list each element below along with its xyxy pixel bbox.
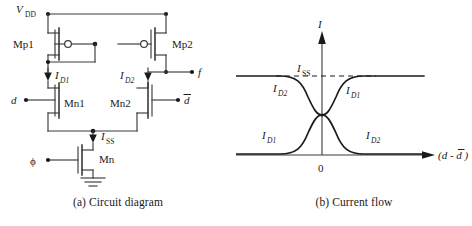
label-curve-id2-right-sub: D2 <box>370 136 380 145</box>
label-id2-sub: D2 <box>124 76 134 85</box>
current-flow-svg: I I SS I D2 I D1 I D1 I D2 0 (d - d ) <box>236 0 472 190</box>
figure-root: V DD Mp1 Mp2 I D1 I D2 Mn1 Mn2 I SS Mn d… <box>0 0 472 226</box>
label-curve-id1-right-sub: D1 <box>350 91 360 100</box>
label-clock-phi: ϕ <box>30 155 36 167</box>
label-iss-sub: SS <box>106 137 114 146</box>
label-input-d: d <box>11 94 17 106</box>
terminal-dot-d <box>24 98 28 102</box>
mp1-gate-bubble <box>65 41 72 48</box>
terminal-dot-dbar <box>176 98 180 102</box>
label-origin: 0 <box>318 162 324 174</box>
panel-current-flow: I I SS I D2 I D1 I D1 I D2 0 (d - d ) (b… <box>236 0 472 226</box>
curve-id1 <box>236 76 424 154</box>
terminal-dot-f <box>190 70 194 74</box>
label-y-axis-current: I <box>317 18 323 30</box>
circuit-labels: V DD Mp1 Mp2 I D1 I D2 Mn1 Mn2 I SS Mn d… <box>11 3 203 167</box>
label-curve-id2-left-sub: D2 <box>277 89 287 98</box>
label-mp2: Mp2 <box>172 38 193 50</box>
circuit-svg: V DD Mp1 Mp2 I D1 I D2 Mn1 Mn2 I SS Mn d… <box>0 0 236 190</box>
label-mp1: Mp1 <box>13 38 34 50</box>
label-vdd-sub: DD <box>25 10 36 19</box>
panel-circuit-diagram: V DD Mp1 Mp2 I D1 I D2 Mn1 Mn2 I SS Mn d… <box>0 0 236 226</box>
label-mn1: Mn1 <box>64 97 85 109</box>
label-x-axis: (d - d ) <box>438 149 469 162</box>
x-axis-arrowhead <box>422 151 435 159</box>
terminal-dot-phi <box>46 158 50 162</box>
label-id1-sub: D1 <box>59 76 69 85</box>
id1-arrow-head <box>44 73 52 82</box>
label-curve-id1-left-sub: D1 <box>266 136 276 145</box>
id2-arrow-head <box>144 73 152 82</box>
mp2-gate-bubble <box>141 41 148 48</box>
label-output-f: f <box>198 66 203 78</box>
label-iss-level-sub: SS <box>302 69 310 78</box>
curve-id2 <box>236 76 424 154</box>
iss-arrow-head <box>89 135 97 144</box>
label-mn: Mn <box>99 153 115 165</box>
crossover-point <box>320 113 323 116</box>
node-dot-left-drain <box>46 60 50 64</box>
label-input-dbar: d <box>184 94 190 106</box>
label-mn2: Mn2 <box>110 97 131 109</box>
caption-current-flow: (b) Current flow <box>236 196 472 208</box>
y-axis-arrowhead <box>318 31 326 44</box>
current-flow-labels: I I SS I D2 I D1 I D1 I D2 0 (d - d ) <box>261 18 469 174</box>
label-vdd: V <box>16 3 24 15</box>
caption-circuit-diagram: (a) Circuit diagram <box>0 196 236 208</box>
